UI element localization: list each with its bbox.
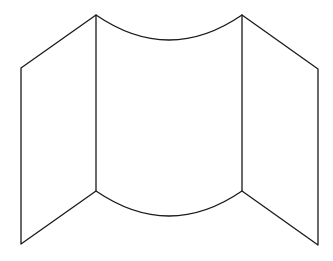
- folding-screen-drawing: [0, 0, 333, 261]
- center-panel: [96, 15, 242, 216]
- left-panel: [21, 15, 96, 244]
- diagram-canvas: [0, 0, 333, 261]
- right-panel: [242, 15, 318, 245]
